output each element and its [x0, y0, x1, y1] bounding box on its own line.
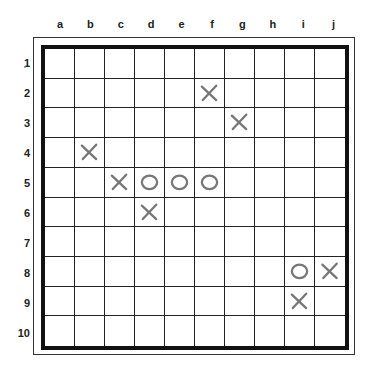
board-cell-i9[interactable]: [285, 287, 315, 317]
board-cell-a9[interactable]: [45, 287, 75, 317]
board-cell-b2[interactable]: [75, 79, 105, 109]
board-cell-h5[interactable]: [255, 168, 285, 198]
board-cell-e1[interactable]: [165, 49, 195, 79]
board-cell-g6[interactable]: [225, 198, 255, 228]
board-cell-d5[interactable]: [135, 168, 165, 198]
board-cell-a6[interactable]: [45, 198, 75, 228]
board-cell-g5[interactable]: [225, 168, 255, 198]
board-cell-h10[interactable]: [255, 316, 285, 346]
board-cell-d1[interactable]: [135, 49, 165, 79]
board-cell-a4[interactable]: [45, 138, 75, 168]
board-cell-h9[interactable]: [255, 287, 285, 317]
board-cell-i5[interactable]: [285, 168, 315, 198]
board-cell-f8[interactable]: [195, 257, 225, 287]
board-cell-f6[interactable]: [195, 198, 225, 228]
board-cell-j1[interactable]: [315, 49, 345, 79]
board-cell-c6[interactable]: [105, 198, 135, 228]
board-cell-g8[interactable]: [225, 257, 255, 287]
board-cell-h6[interactable]: [255, 198, 285, 228]
board-cell-i3[interactable]: [285, 108, 315, 138]
board-cell-h8[interactable]: [255, 257, 285, 287]
board-cell-f1[interactable]: [195, 49, 225, 79]
board-cell-c5[interactable]: [105, 168, 135, 198]
board-cell-d8[interactable]: [135, 257, 165, 287]
board-cell-e2[interactable]: [165, 79, 195, 109]
board-cell-c10[interactable]: [105, 316, 135, 346]
board-cell-i6[interactable]: [285, 198, 315, 228]
board-cell-c9[interactable]: [105, 287, 135, 317]
board-cell-e8[interactable]: [165, 257, 195, 287]
board-cell-f7[interactable]: [195, 227, 225, 257]
board-cell-a7[interactable]: [45, 227, 75, 257]
board-cell-d7[interactable]: [135, 227, 165, 257]
board-cell-j8[interactable]: [315, 257, 345, 287]
board-cell-a1[interactable]: [45, 49, 75, 79]
board-cell-e5[interactable]: [165, 168, 195, 198]
board-cell-b6[interactable]: [75, 198, 105, 228]
board-cell-d2[interactable]: [135, 79, 165, 109]
board-cell-a8[interactable]: [45, 257, 75, 287]
board-cell-j9[interactable]: [315, 287, 345, 317]
board-cell-j2[interactable]: [315, 79, 345, 109]
board-cell-b8[interactable]: [75, 257, 105, 287]
board-cell-j10[interactable]: [315, 316, 345, 346]
board-cell-g9[interactable]: [225, 287, 255, 317]
board-cell-f2[interactable]: [195, 79, 225, 109]
board-cell-c4[interactable]: [105, 138, 135, 168]
board-cell-b4[interactable]: [75, 138, 105, 168]
board-cell-c3[interactable]: [105, 108, 135, 138]
board-cell-c8[interactable]: [105, 257, 135, 287]
board-cell-b7[interactable]: [75, 227, 105, 257]
board-cell-f9[interactable]: [195, 287, 225, 317]
board-cell-b5[interactable]: [75, 168, 105, 198]
board-cell-f10[interactable]: [195, 316, 225, 346]
board-cell-i10[interactable]: [285, 316, 315, 346]
board-cell-j4[interactable]: [315, 138, 345, 168]
board-cell-f3[interactable]: [195, 108, 225, 138]
board-cell-h7[interactable]: [255, 227, 285, 257]
board-cell-a3[interactable]: [45, 108, 75, 138]
board-cell-e3[interactable]: [165, 108, 195, 138]
board-cell-g4[interactable]: [225, 138, 255, 168]
board-cell-e4[interactable]: [165, 138, 195, 168]
board-cell-h3[interactable]: [255, 108, 285, 138]
board-cell-i2[interactable]: [285, 79, 315, 109]
board-cell-g2[interactable]: [225, 79, 255, 109]
board-cell-h1[interactable]: [255, 49, 285, 79]
board-cell-e9[interactable]: [165, 287, 195, 317]
board-cell-d6[interactable]: [135, 198, 165, 228]
board-cell-g3[interactable]: [225, 108, 255, 138]
board-cell-j6[interactable]: [315, 198, 345, 228]
board-cell-d3[interactable]: [135, 108, 165, 138]
board-cell-b1[interactable]: [75, 49, 105, 79]
board-cell-a5[interactable]: [45, 168, 75, 198]
board-cell-e10[interactable]: [165, 316, 195, 346]
board-cell-h4[interactable]: [255, 138, 285, 168]
board-cell-j3[interactable]: [315, 108, 345, 138]
board-cell-d10[interactable]: [135, 316, 165, 346]
board-cell-c1[interactable]: [105, 49, 135, 79]
board-cell-g1[interactable]: [225, 49, 255, 79]
board-cell-i7[interactable]: [285, 227, 315, 257]
board-cell-c7[interactable]: [105, 227, 135, 257]
board-cell-g7[interactable]: [225, 227, 255, 257]
board-cell-h2[interactable]: [255, 79, 285, 109]
board-cell-b3[interactable]: [75, 108, 105, 138]
board-cell-e6[interactable]: [165, 198, 195, 228]
board-cell-i1[interactable]: [285, 49, 315, 79]
board-cell-j7[interactable]: [315, 227, 345, 257]
board-cell-g10[interactable]: [225, 316, 255, 346]
board-cell-i8[interactable]: [285, 257, 315, 287]
board-cell-b10[interactable]: [75, 316, 105, 346]
board-cell-j5[interactable]: [315, 168, 345, 198]
board-cell-a2[interactable]: [45, 79, 75, 109]
board-cell-c2[interactable]: [105, 79, 135, 109]
board-cell-f5[interactable]: [195, 168, 225, 198]
board-cell-a10[interactable]: [45, 316, 75, 346]
board-cell-i4[interactable]: [285, 138, 315, 168]
board-cell-e7[interactable]: [165, 227, 195, 257]
board-cell-b9[interactable]: [75, 287, 105, 317]
board-cell-d9[interactable]: [135, 287, 165, 317]
board-cell-f4[interactable]: [195, 138, 225, 168]
board-cell-d4[interactable]: [135, 138, 165, 168]
